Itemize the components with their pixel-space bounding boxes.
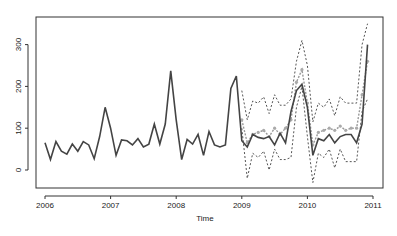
x-tick-label: 2008: [167, 201, 185, 210]
forecast-point: [333, 129, 336, 132]
forecast-point: [300, 68, 303, 71]
forecast-point: [350, 127, 353, 130]
y-tick-label: 300: [14, 37, 23, 51]
y-tick-label: 0: [14, 167, 23, 172]
forecast-point: [360, 93, 363, 96]
y-tick-label: 100: [14, 121, 23, 135]
forecast-point: [262, 129, 265, 132]
forecast-point: [339, 125, 342, 128]
series-observed: [45, 45, 368, 160]
forecast-point: [295, 81, 298, 84]
forecast-point: [344, 129, 347, 132]
forecast-point: [322, 129, 325, 132]
time-series-chart: 0100200300 200620072008200920102011 Time: [0, 0, 397, 236]
x-tick-label: 2011: [364, 201, 382, 210]
x-tick-label: 2010: [299, 201, 317, 210]
x-tick-label: 2006: [36, 201, 54, 210]
forecast-point: [284, 127, 287, 130]
x-tick-label: 2007: [102, 201, 120, 210]
forecast-point: [355, 127, 358, 130]
x-axis-label: Time: [196, 214, 214, 223]
forecast-point: [317, 131, 320, 134]
forecast-point: [328, 127, 331, 130]
x-tick-label: 2009: [233, 201, 251, 210]
forecast-point: [257, 131, 260, 134]
y-axis: 0100200300: [14, 37, 28, 172]
forecast-point: [273, 127, 276, 130]
series-group: [45, 24, 369, 183]
x-axis: 200620072008200920102011: [36, 196, 382, 210]
y-tick-label: 200: [14, 79, 23, 93]
